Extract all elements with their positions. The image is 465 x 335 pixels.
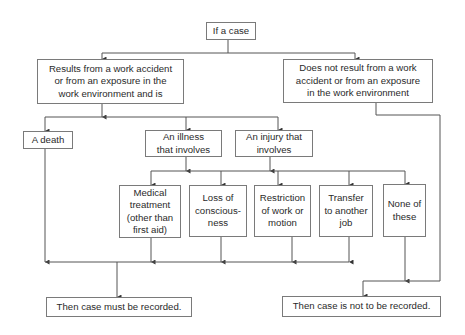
node-transfer: Transfer to another job xyxy=(319,185,373,237)
node-label: Results from a work accident or from an … xyxy=(49,63,172,100)
node-label: Restriction of work or motion xyxy=(260,192,305,229)
connector-lines xyxy=(0,0,465,335)
node-not-record: Then case is not to be recorded. xyxy=(282,296,441,317)
node-label: An injury that involves xyxy=(246,131,302,156)
node-death: A death xyxy=(23,131,73,149)
node-not-work-related: Does not result from a work accident or … xyxy=(283,59,433,103)
node-label: Then case is not to be recorded. xyxy=(293,300,431,312)
node-if-a-case: If a case xyxy=(206,22,256,40)
node-must-record: Then case must be recorded. xyxy=(46,297,192,317)
node-label: Does not result from a work accident or … xyxy=(296,62,420,99)
node-injury: An injury that involves xyxy=(235,130,313,157)
node-label: Loss of conscious- ness xyxy=(195,192,241,229)
node-label: A death xyxy=(32,134,65,146)
node-label: An illness that involves xyxy=(157,131,210,156)
node-label: Medical treatment (other than first aid) xyxy=(127,187,173,237)
node-restriction: Restriction of work or motion xyxy=(254,185,311,237)
node-none-of-these: None of these xyxy=(383,184,426,237)
node-illness: An illness that involves xyxy=(145,130,222,157)
node-label: If a case xyxy=(213,25,249,37)
node-label: None of these xyxy=(388,198,422,223)
node-loss-of-consciousness: Loss of conscious- ness xyxy=(189,185,247,237)
node-work-related: Results from a work accident or from an … xyxy=(37,59,184,104)
node-label: Transfer to another job xyxy=(324,192,367,229)
node-label: Then case must be recorded. xyxy=(57,301,182,313)
node-medical-treatment: Medical treatment (other than first aid) xyxy=(119,185,181,238)
